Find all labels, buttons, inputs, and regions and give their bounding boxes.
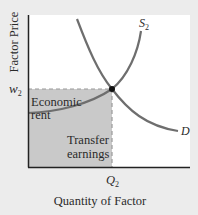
equilibrium-point xyxy=(109,86,115,92)
price-w2-label: w2 xyxy=(9,81,22,98)
transfer-earnings-label-line1: Transfer xyxy=(67,133,110,147)
y-axis-title: Factor Price xyxy=(7,11,21,72)
x-axis-title: Quantity of Factor xyxy=(54,194,147,208)
demand-label: D xyxy=(180,124,190,138)
transfer-earnings-label-line2: earnings xyxy=(67,147,109,161)
economic-rent-label-line1: Economic xyxy=(31,95,82,109)
quantity-q2-label: Q2 xyxy=(106,173,119,189)
economic-rent-diagram: Economic rent Transfer earnings S2 D w2 … xyxy=(0,0,198,215)
economic-rent-label-line2: rent xyxy=(31,108,51,122)
